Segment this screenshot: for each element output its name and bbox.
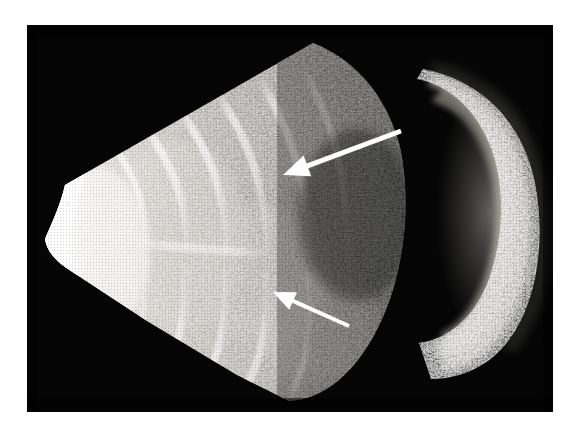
scan-frame	[27, 25, 553, 412]
ultrasound-scan-image	[27, 25, 553, 412]
figure-root	[0, 0, 572, 438]
figure-caption	[0, 0, 1, 1]
